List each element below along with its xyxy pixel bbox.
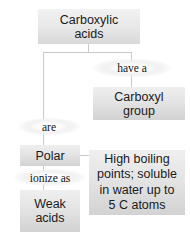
connector-line-branch-bar	[43, 52, 132, 53]
node-carboxyl-group: Carboxyl group	[93, 87, 185, 120]
connector-line-to-are	[43, 52, 44, 120]
concept-map-diagram: Carboxylic acids have a Carboxyl group a…	[0, 0, 190, 246]
node-weak-acids-line1: Weak	[34, 197, 66, 211]
node-carboxylic-acids-line2: acids	[60, 27, 118, 41]
connector-label-have-a-text: have a	[117, 62, 147, 74]
node-carboxylic-acids: Carboxylic acids	[38, 9, 140, 44]
connector-label-ionize-as: ionize as	[14, 168, 86, 187]
node-high-boiling-line1: High boiling	[97, 152, 177, 167]
connector-label-are-text: are	[42, 121, 56, 133]
node-high-boiling-line2: points; soluble	[97, 167, 177, 182]
node-polar-label: Polar	[35, 149, 64, 163]
node-weak-acids-line2: acids	[34, 211, 66, 225]
node-carboxylic-acids-line1: Carboxylic	[60, 13, 118, 27]
node-carboxyl-group-line1: Carboxyl	[114, 90, 163, 104]
connector-label-have-a: have a	[92, 58, 172, 78]
connector-label-are: are	[18, 117, 80, 136]
node-high-boiling-line3: in water up to	[97, 183, 177, 198]
node-polar: Polar	[20, 145, 80, 166]
node-weak-acids: Weak acids	[20, 190, 80, 232]
node-high-boiling-line4: 5 C atoms	[97, 198, 177, 213]
node-high-boiling-points: High boiling points; soluble in water up…	[89, 150, 185, 215]
connector-label-ionize-as-text: ionize as	[30, 172, 71, 184]
node-carboxyl-group-line2: group	[114, 104, 163, 118]
